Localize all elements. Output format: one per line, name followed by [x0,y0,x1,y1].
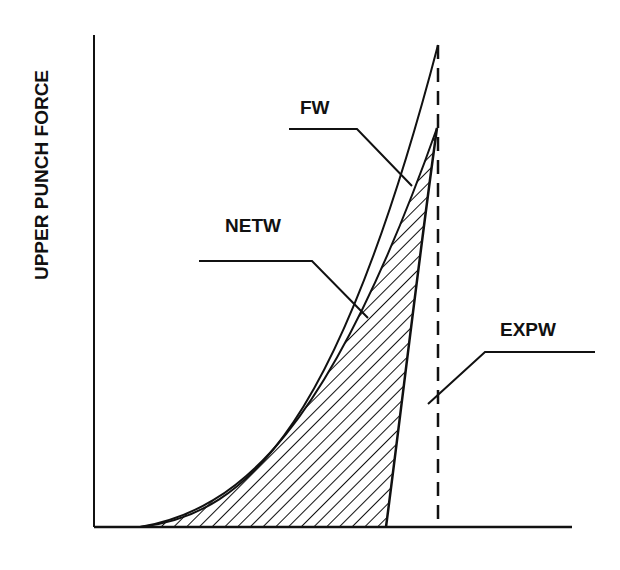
force-work-diagram: UPPER PUNCH FORCE FW NETW EXPW [0,0,620,570]
netw-leader-line [199,261,368,318]
fw-leader-line [289,129,412,186]
netw-hatched-region [130,120,450,530]
netw-label: NETW [225,215,281,236]
expw-leader-line [428,352,595,404]
y-axis-label: UPPER PUNCH FORCE [31,70,52,280]
expw-label: EXPW [500,319,556,340]
fw-label: FW [300,97,330,118]
